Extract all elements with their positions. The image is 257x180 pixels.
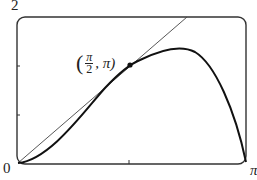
x-right-label: π [250, 162, 257, 179]
origin-label: 0 [3, 160, 11, 177]
fraction: π 2 [85, 52, 93, 75]
plot-canvas [0, 0, 257, 180]
plot-frame [17, 17, 246, 164]
y-top-label: 2 [11, 0, 19, 14]
point-label: ( π 2 , π) [76, 50, 115, 76]
point-label-rest: , π) [95, 55, 115, 72]
fraction-denominator: 2 [86, 64, 92, 75]
paren-open: ( [76, 50, 83, 76]
point-marker [127, 62, 132, 67]
